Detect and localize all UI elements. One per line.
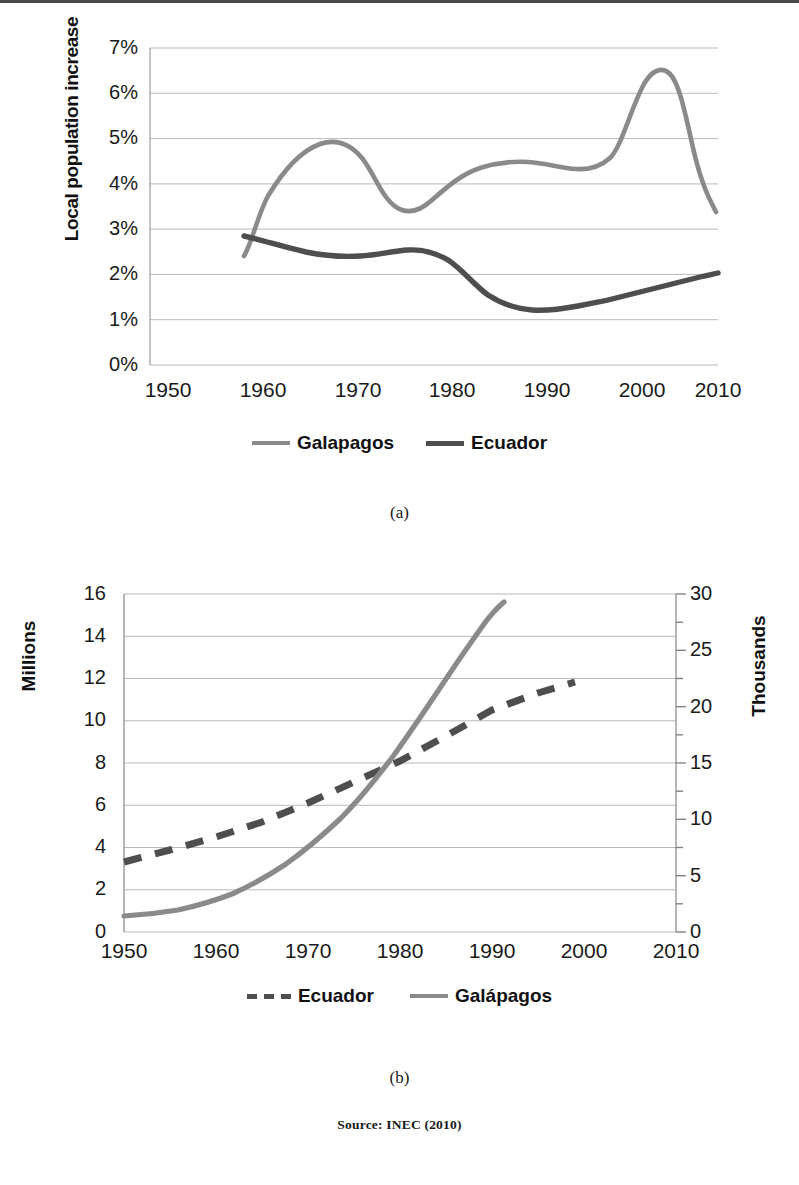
- chart-b-legend: Ecuador Galápagos: [0, 985, 799, 1007]
- chart-b-series-ecuador: [124, 682, 575, 862]
- legend-line-swatch-ecuador-icon: [426, 441, 464, 446]
- chart-a-xtick-1960: 1960: [223, 378, 303, 402]
- figure-caption-a: (a): [0, 503, 799, 523]
- chart-a-xtick-2000: 2000: [602, 378, 682, 402]
- chart-a-legend: Galapagos Ecuador: [0, 432, 799, 454]
- figure-caption-b: (b): [0, 1068, 799, 1088]
- chart-b-population-totals: Millions Thousands 16 14 12 10 8 6 4 2 0…: [0, 545, 799, 995]
- legend-line-swatch-galapagos-icon: [410, 994, 448, 998]
- chart-a-xtick-1970: 1970: [318, 378, 398, 402]
- chart-b-xtick-1960: 1960: [176, 939, 256, 963]
- chart-b-xtick-2000: 2000: [544, 939, 624, 963]
- chart-b-legend-item-galapagos[interactable]: Galápagos: [410, 985, 552, 1007]
- chart-a-series-galapagos: [244, 70, 716, 256]
- chart-a-xtick-1980: 1980: [412, 378, 492, 402]
- chart-b-xtick-1970: 1970: [268, 939, 348, 963]
- chart-b-xtick-1950: 1950: [84, 939, 164, 963]
- legend-line-swatch-galapagos-icon: [252, 441, 290, 445]
- chart-a-legend-item-galapagos[interactable]: Galapagos: [252, 432, 394, 454]
- chart-a-xtick-1950: 1950: [128, 378, 208, 402]
- chart-b-series-galapagos: [124, 602, 504, 916]
- chart-b-xtick-1980: 1980: [360, 939, 440, 963]
- figure-source-note: Source: INEC (2010): [0, 1117, 799, 1133]
- chart-b-xtick-2010: 2010: [636, 939, 716, 963]
- chart-a-legend-label-ecuador: Ecuador: [471, 432, 547, 454]
- chart-a-legend-item-ecuador[interactable]: Ecuador: [426, 432, 547, 454]
- chart-a-local-population-increase: Local population increase 7% 6% 5% 4% 3%…: [0, 0, 799, 470]
- chart-a-xtick-1990: 1990: [507, 378, 587, 402]
- chart-a-series-ecuador: [244, 236, 718, 310]
- chart-b-legend-item-ecuador[interactable]: Ecuador: [247, 985, 374, 1007]
- chart-b-xtick-1990: 1990: [452, 939, 532, 963]
- chart-a-legend-label-galapagos: Galapagos: [297, 432, 394, 454]
- legend-dashed-line-swatch-ecuador-icon: [247, 994, 291, 999]
- chart-b-legend-label-galapagos: Galápagos: [455, 985, 552, 1007]
- chart-a-xtick-2010: 2010: [678, 378, 758, 402]
- chart-b-legend-label-ecuador: Ecuador: [298, 985, 374, 1007]
